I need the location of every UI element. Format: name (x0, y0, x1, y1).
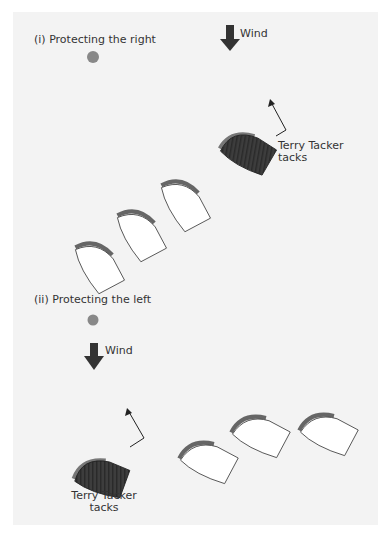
tacker-label-line2: tacks (278, 152, 343, 164)
boat-white-4 (177, 433, 238, 487)
boat-white-6 (297, 405, 358, 459)
tack-arrow-icon-ii (125, 408, 144, 447)
tacker-label-line2: tacks (64, 502, 144, 514)
boat-white-1 (72, 234, 126, 295)
boat-white-2 (114, 202, 168, 263)
panel-ii-tacker-label: Terry Tacker tacks (64, 490, 144, 514)
tacker-boat-i (217, 124, 277, 178)
tack-arrow-icon-i (268, 99, 286, 136)
mark-buoy-ii (88, 315, 99, 326)
panel-i-tacker-label: Terry Tacker tacks (278, 140, 343, 164)
panel-i-title: (i) Protecting the right (34, 34, 156, 46)
panel-ii-wind-label: Wind (105, 345, 133, 357)
boat-white-5 (229, 407, 290, 461)
wind-arrow-icon-i (220, 25, 240, 51)
wind-arrow-icon-ii (84, 343, 104, 370)
sailing-diagram (0, 0, 390, 538)
panel-i-wind-label: Wind (240, 28, 268, 40)
mark-buoy-i (87, 51, 99, 63)
panel-ii-title: (ii) Protecting the left (34, 294, 151, 306)
boat-white-3 (158, 172, 212, 233)
